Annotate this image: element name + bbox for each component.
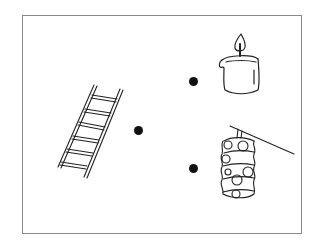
candle-match-dot[interactable] bbox=[189, 77, 198, 86]
lantern-icon bbox=[216, 124, 296, 202]
lantern-match-dot[interactable] bbox=[189, 164, 198, 173]
ladder-icon bbox=[55, 82, 125, 182]
ladder-match-dot[interactable] bbox=[134, 126, 143, 135]
candle-icon bbox=[216, 30, 264, 100]
